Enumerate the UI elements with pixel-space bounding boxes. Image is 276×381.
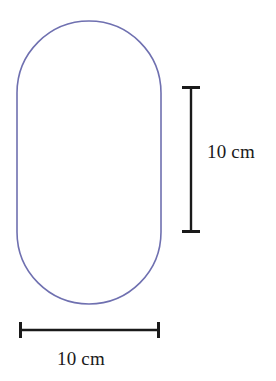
figure-canvas: 10 cm 10 cm xyxy=(0,0,276,381)
background-rect xyxy=(0,0,276,381)
vertical-dimension-label: 10 cm xyxy=(207,142,255,161)
diagram-svg xyxy=(0,0,276,381)
horizontal-dimension-label: 10 cm xyxy=(57,349,105,368)
